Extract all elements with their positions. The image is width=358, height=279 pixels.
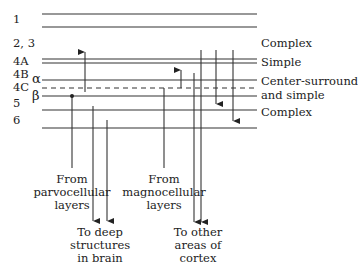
layer-label-5: 5 [13, 97, 20, 110]
cell-type-layer-4A: Simple [261, 56, 301, 69]
layer-label-2-3: 2, 3 [13, 37, 35, 50]
parvo-input-label: From parvocellular layers [22, 173, 122, 212]
layer-label-4C: 4C [13, 81, 29, 94]
magno-input-label: From magnocellular layers [116, 173, 212, 212]
cell-type-layer-2-3: Complex [261, 37, 312, 50]
magno-line3: layers [116, 199, 212, 212]
parvo-termination-dot [70, 94, 74, 98]
cell-type-layer-5: Complex [261, 106, 312, 119]
deep-output-label: To deep structures in brain [70, 226, 130, 265]
deep-line3: in brain [70, 252, 130, 265]
cortex-output-label: To other areas of cortex [168, 226, 228, 265]
sublayer-label-beta: β [32, 89, 40, 102]
layer-label-1: 1 [13, 13, 20, 26]
cell-type-layer-4C-line2: and simple [261, 89, 325, 102]
parvo-line3: layers [22, 199, 122, 212]
cortex-line3: cortex [168, 252, 228, 265]
cell-type-layer-4C-line1: Center-surround [261, 75, 358, 88]
sublayer-label-alpha: α [32, 72, 41, 85]
layer-label-6: 6 [13, 114, 20, 127]
